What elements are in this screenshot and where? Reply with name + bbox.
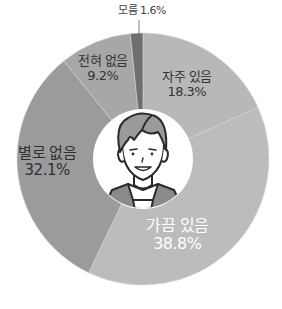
label-unknown-text: 모름 1.6% — [118, 5, 166, 18]
label-rarely-name: 별로 없음 — [18, 145, 76, 162]
label-unknown: 모름 1.6% — [118, 5, 166, 18]
label-frequent-value: 18.3% — [162, 85, 212, 100]
label-rarely: 별로 없음 32.1% — [18, 145, 76, 180]
label-never: 전혀 없음 9.2% — [78, 54, 128, 84]
label-rarely-value: 32.1% — [18, 162, 76, 179]
label-never-value: 9.2% — [78, 69, 128, 84]
label-never-name: 전혀 없음 — [78, 54, 128, 69]
label-sometimes-value: 38.8% — [146, 235, 209, 253]
label-sometimes-name: 가끔 있음 — [146, 217, 209, 235]
label-frequent-name: 자주 있음 — [162, 70, 212, 85]
label-frequent: 자주 있음 18.3% — [162, 70, 212, 100]
label-sometimes: 가끔 있음 38.8% — [146, 217, 209, 254]
